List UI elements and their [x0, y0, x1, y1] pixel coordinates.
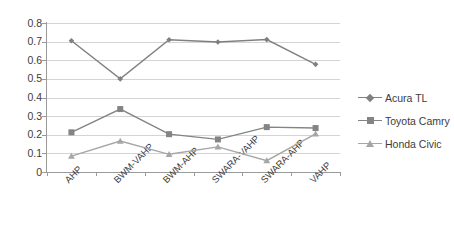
- data-point-marker: [215, 39, 221, 45]
- series-honda-civic: [68, 130, 319, 163]
- legend-marker-triangle-icon: [358, 138, 382, 150]
- x-axis-tick: [145, 172, 146, 176]
- data-point-marker: [264, 37, 270, 43]
- data-point-marker: [117, 106, 123, 112]
- data-point-marker: [117, 138, 124, 144]
- data-point-marker: [166, 131, 172, 137]
- y-axis-tick: [42, 172, 46, 173]
- data-point-marker: [313, 62, 319, 68]
- legend-item-toyota-camry[interactable]: Toyota Camry: [358, 109, 454, 132]
- y-axis-tick: [42, 23, 46, 24]
- series-toyota-camry: [68, 106, 318, 142]
- series-line: [71, 40, 315, 79]
- x-axis-tick: [47, 172, 48, 176]
- legend-marker: [366, 140, 374, 147]
- data-point-marker: [68, 129, 74, 135]
- series-acura-tl: [69, 37, 319, 82]
- x-axis-tick: [194, 172, 195, 176]
- x-axis-tick: [340, 172, 341, 176]
- legend-item-label: Honda Civic: [385, 138, 442, 150]
- legend-item-honda-civic[interactable]: Honda Civic: [358, 132, 454, 155]
- y-axis-tick: [42, 98, 46, 99]
- legend-marker-diamond-icon: [358, 92, 382, 104]
- series-line: [71, 134, 315, 161]
- legend-marker: [366, 93, 374, 101]
- series-line: [71, 109, 315, 139]
- legend-marker-square-icon: [358, 115, 382, 127]
- legend-marker: [367, 117, 374, 124]
- data-point-marker: [312, 130, 319, 136]
- line-chart: 0.80.70.60.50.40.30.20.10 AHPBWM-VAHPBWM…: [0, 0, 454, 235]
- y-axis-tick: [42, 60, 46, 61]
- data-point-marker: [264, 124, 270, 130]
- y-axis-tick: [42, 79, 46, 80]
- data-point-marker: [215, 136, 221, 142]
- legend-item-label: Acura TL: [385, 92, 427, 104]
- y-axis-tick: [42, 116, 46, 117]
- y-axis-tick: [42, 135, 46, 136]
- data-point-marker: [215, 143, 222, 149]
- legend-item-acura-tl[interactable]: Acura TL: [358, 86, 454, 109]
- data-point-marker: [313, 125, 319, 131]
- y-axis-tick: [42, 42, 46, 43]
- x-axis-tick: [96, 172, 97, 176]
- y-axis-tick: [42, 153, 46, 154]
- legend: Acura TLToyota CamryHonda Civic: [358, 86, 454, 155]
- legend-item-label: Toyota Camry: [385, 115, 450, 127]
- x-axis-tick: [291, 172, 292, 176]
- x-axis-tick: [242, 172, 243, 176]
